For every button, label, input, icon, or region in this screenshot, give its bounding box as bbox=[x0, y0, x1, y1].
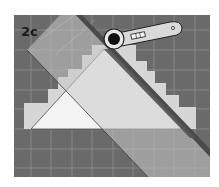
step-label: 2c bbox=[21, 24, 38, 39]
cutting-diagram: 2c bbox=[0, 0, 219, 187]
